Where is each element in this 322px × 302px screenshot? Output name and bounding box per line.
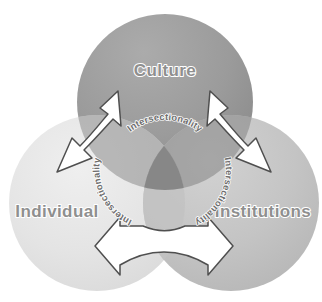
label-culture: Culture <box>134 61 196 80</box>
label-individual: Individual <box>15 202 98 221</box>
venn-diagram-svg: Culture Individual Institutions Intersec… <box>0 0 322 302</box>
venn-diagram-container: Culture Individual Institutions Intersec… <box>0 0 322 302</box>
label-institutions: Institutions <box>215 202 311 221</box>
